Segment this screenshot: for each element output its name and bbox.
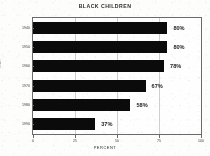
bar-chart: BLACK CHILDREN YEAR 19401950196019701980… <box>0 0 210 156</box>
x-tick-mark <box>117 135 118 138</box>
y-tick-mark <box>32 86 34 87</box>
x-axis-title: PERCENT <box>0 145 210 150</box>
y-tick-label: 1960 <box>22 64 30 68</box>
bar-row: 80% <box>33 22 201 34</box>
bar[interactable] <box>33 60 164 72</box>
x-tick-label: 50 <box>115 139 119 143</box>
bar-row: 37% <box>33 118 201 130</box>
bar[interactable] <box>33 22 167 34</box>
plot-area: 80%80%78%67%58%37% <box>33 18 201 134</box>
bar[interactable] <box>33 80 146 92</box>
bar-value-label: 37% <box>101 121 112 127</box>
gridline <box>75 18 76 134</box>
x-tick-label: 100 <box>198 139 204 143</box>
x-tick-mark <box>201 135 202 138</box>
y-tick-mark <box>32 105 34 106</box>
y-axis-title: YEAR <box>0 59 2 69</box>
y-tick-mark <box>32 28 34 29</box>
bar-value-label: 78% <box>170 63 181 69</box>
y-axis-tick-labels: 194019501960197019801990 <box>8 18 30 134</box>
x-tick-label: 0 <box>32 139 34 143</box>
gridline <box>117 18 118 134</box>
y-tick-mark <box>32 66 34 67</box>
bar-row: 80% <box>33 41 201 53</box>
y-tick-label: 1980 <box>22 103 30 107</box>
bar-row: 78% <box>33 60 201 72</box>
y-tick-label: 1950 <box>22 45 30 49</box>
y-tick-mark <box>32 124 34 125</box>
x-tick-label: 25 <box>73 139 77 143</box>
x-tick-mark <box>33 135 34 138</box>
bar[interactable] <box>33 118 95 130</box>
bar-row: 67% <box>33 80 201 92</box>
bar-row: 58% <box>33 99 201 111</box>
x-tick-label: 75 <box>157 139 161 143</box>
x-tick-mark <box>159 135 160 138</box>
bar-value-label: 80% <box>173 25 184 31</box>
bar-value-label: 67% <box>152 83 163 89</box>
y-tick-mark <box>32 47 34 48</box>
bar-value-label: 58% <box>136 102 147 108</box>
y-tick-label: 1990 <box>22 122 30 126</box>
bar[interactable] <box>33 41 167 53</box>
x-tick-mark <box>75 135 76 138</box>
gridline <box>159 18 160 134</box>
bar[interactable] <box>33 99 130 111</box>
y-tick-label: 1940 <box>22 26 30 30</box>
y-tick-label: 1970 <box>22 84 30 88</box>
bar-value-label: 80% <box>173 44 184 50</box>
chart-title: BLACK CHILDREN <box>0 3 210 9</box>
